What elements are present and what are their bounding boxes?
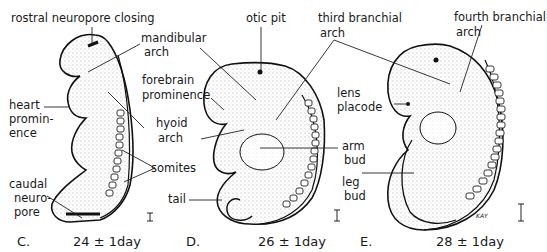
label-third-branchial-arch-line1: third branchial bbox=[318, 12, 402, 25]
embryo-d-otic-pit bbox=[258, 70, 263, 75]
panel-letter-e: E. bbox=[360, 234, 372, 249]
scale-bar-e bbox=[518, 204, 524, 221]
label-leg-bud-line2: bud bbox=[344, 190, 366, 203]
panel-age-d: 26 ± 1day bbox=[258, 234, 326, 249]
label-hyoid-arch-line2: arch bbox=[158, 132, 183, 145]
scale-bar-c bbox=[147, 213, 153, 221]
label-lens-placode-line1: lens bbox=[337, 87, 361, 100]
label-arm-bud-line1: arm bbox=[342, 140, 365, 153]
embryo-d-heart bbox=[240, 134, 284, 170]
label-hyoid-arch-line1: hyoid bbox=[156, 117, 188, 130]
label-fourth-branchial-arch-line1: fourth branchial bbox=[454, 11, 546, 24]
label-otic-pit: otic pit bbox=[246, 12, 286, 25]
scale-bar-d bbox=[334, 210, 340, 221]
panel-age-c: 24 ± 1day bbox=[73, 234, 141, 249]
label-heart-prominence-line2: promin- bbox=[9, 113, 54, 126]
label-lens-placode-line2: placode bbox=[337, 101, 382, 114]
label-arm-bud-line2: bud bbox=[344, 154, 366, 167]
label-mandibular-arch-line2: arch bbox=[144, 46, 169, 59]
label-leg-bud-line1: leg bbox=[342, 176, 360, 189]
label-caudal-neuropore-line1: caudal bbox=[9, 178, 47, 191]
artist-signature: KAY bbox=[476, 209, 488, 222]
embryo-e-drawing bbox=[388, 44, 524, 230]
embryo-c-drawing bbox=[52, 35, 153, 222]
panel-letter-c: C. bbox=[17, 234, 30, 249]
label-fourth-branchial-arch-line2: arch bbox=[456, 26, 481, 39]
panel-letter-d: D. bbox=[186, 234, 200, 249]
label-somites: somites bbox=[151, 162, 196, 175]
embryo-e-heart bbox=[420, 112, 456, 144]
label-rostral-neuropore-closing: rostral neuropore closing bbox=[11, 12, 155, 25]
label-heart-prominence-line1: heart bbox=[9, 99, 40, 112]
label-mandibular-arch-line1: mandibular bbox=[141, 32, 207, 45]
label-forebrain-prominence-line1: forebrain bbox=[142, 74, 194, 87]
label-caudal-neuropore-line2: neuro- bbox=[14, 192, 52, 205]
embryo-d-drawing bbox=[204, 63, 340, 225]
embryo-e-eye bbox=[434, 58, 439, 63]
label-tail: tail bbox=[168, 193, 186, 206]
panel-age-e: 28 ± 1day bbox=[436, 234, 504, 249]
label-third-branchial-arch-line2: arch bbox=[320, 27, 345, 40]
label-heart-prominence-line3: ence bbox=[9, 127, 37, 140]
label-caudal-neuropore-line3: pore bbox=[14, 206, 40, 219]
label-forebrain-prominence-line2: prominence bbox=[142, 89, 210, 102]
